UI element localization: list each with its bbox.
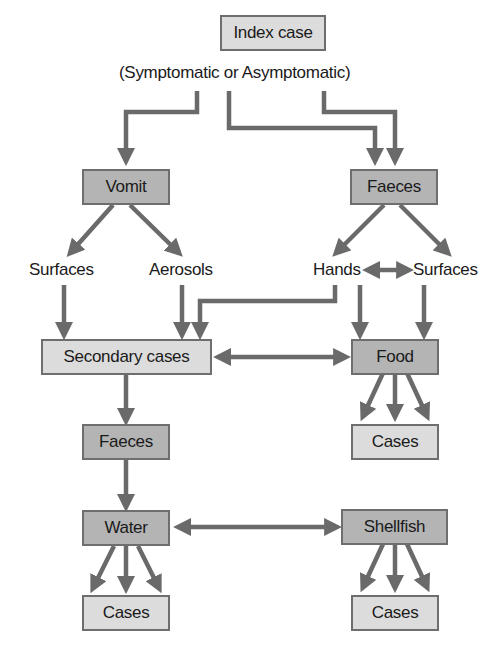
arrow-faeces-to-surfaces	[400, 205, 446, 251]
arrow-faeces-to-hands	[338, 205, 384, 251]
node-water: Water	[82, 510, 170, 546]
node-shellfish-cases: Cases	[351, 595, 439, 631]
label-surfaces-left: Surfaces	[29, 260, 94, 280]
arrow-layer	[0, 0, 498, 656]
arrow-shellfish-to-cases-1	[364, 544, 383, 585]
label-index-subtitle: (Symptomatic or Asymptomatic)	[119, 63, 350, 83]
node-faeces-top: Faeces	[350, 169, 438, 205]
node-water-cases: Cases	[82, 595, 170, 631]
label-surfaces-right: Surfaces	[413, 260, 478, 280]
arrow-index-to-faeces-1	[229, 91, 375, 158]
node-secondary-cases: Secondary cases	[41, 339, 212, 375]
arrow-index-to-faeces-2	[324, 91, 395, 158]
arrow-food-to-cases-3	[407, 373, 426, 414]
node-index-case: Index case	[220, 15, 326, 51]
arrow-index-to-vomit	[126, 91, 197, 158]
arrow-vomit-to-aerosols	[130, 205, 177, 251]
node-faeces-bottom: Faeces	[82, 424, 170, 460]
arrow-water-to-cases-3	[138, 546, 158, 586]
node-vomit: Vomit	[82, 169, 170, 205]
arrow-hands-to-secondary	[200, 285, 335, 332]
label-aerosols: Aerosols	[149, 260, 213, 280]
node-food: Food	[351, 339, 439, 375]
label-hands: Hands	[313, 260, 361, 280]
arrow-food-to-cases-1	[364, 373, 383, 414]
node-food-cases: Cases	[351, 424, 439, 460]
arrow-water-to-cases-1	[94, 546, 114, 586]
arrow-shellfish-to-cases-3	[407, 544, 426, 585]
arrow-vomit-to-surfaces	[72, 205, 113, 251]
node-shellfish: Shellfish	[341, 509, 448, 545]
